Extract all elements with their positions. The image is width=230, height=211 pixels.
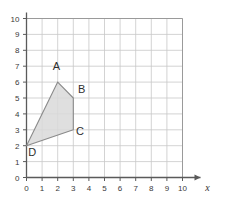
y-tick-label: 2 [15,142,20,151]
coordinate-plot-svg: 012345678910 012345678910 ABCD x [0,0,230,211]
y-tick-label: 6 [15,78,20,87]
y-tick-label: 5 [15,94,20,103]
vertex-label-B: B [78,83,85,95]
tick-marks [23,19,183,182]
y-tick-label: 8 [15,46,20,55]
vertex-label-D: D [28,146,36,158]
x-tick-label: 5 [102,184,107,193]
y-tick-label: 4 [15,110,20,119]
y-tick-label: 3 [15,126,20,135]
y-tick-label: 1 [15,158,20,167]
x-tick-label: 7 [133,184,138,193]
coordinate-plane-figure: 012345678910 012345678910 ABCD x [0,0,230,211]
x-axis-name-label: x [204,182,210,193]
x-tick-label: 4 [87,184,92,193]
y-tick-label: 0 [15,174,20,183]
x-tick-label: 3 [71,184,76,193]
x-axis-tick-labels: 012345678910 [24,184,187,193]
x-tick-label: 10 [178,184,187,193]
y-tick-label: 9 [15,30,20,39]
x-tick-label: 8 [149,184,154,193]
x-tick-label: 1 [40,184,45,193]
y-tick-label: 7 [15,62,20,71]
x-axis-name: x [204,182,210,193]
vertex-label-A: A [53,60,61,72]
x-tick-label: 9 [165,184,170,193]
x-axis-arrowhead [195,174,201,180]
y-tick-label: 10 [11,15,20,24]
vertex-label-C: C [76,125,84,137]
x-tick-label: 0 [24,184,29,193]
x-tick-label: 6 [118,184,123,193]
y-axis-tick-labels: 012345678910 [11,15,20,183]
x-tick-label: 2 [55,184,60,193]
